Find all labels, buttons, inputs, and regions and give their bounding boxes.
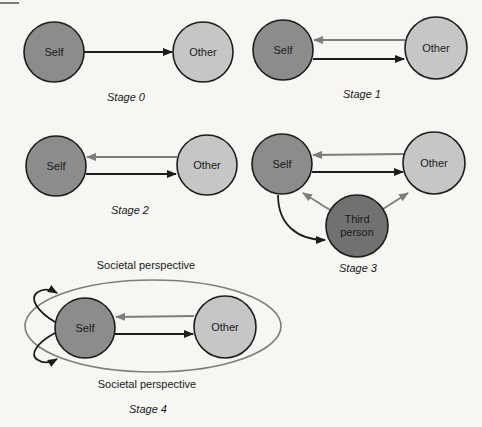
third-to-other-arrow	[383, 193, 408, 209]
other-label: Other	[193, 159, 221, 171]
stage-1: Self Other Stage 1	[253, 17, 467, 100]
other-label: Other	[189, 46, 217, 58]
self-label: Self	[273, 158, 293, 170]
perspective-taking-stages-diagram: Self Other Stage 0 Self Other Stage 1 Se…	[0, 0, 482, 427]
self-label: Self	[45, 46, 65, 58]
societal-perspective-top-label: Societal perspective	[97, 259, 195, 271]
other-label: Other	[422, 42, 450, 54]
stage-3: Self Other Third person Stage 3	[252, 132, 465, 274]
societal-perspective-bottom-label: Societal perspective	[98, 378, 196, 390]
stage-label: Stage 4	[129, 403, 167, 415]
stage-0: Self Other Stage 0	[24, 22, 233, 103]
stage-label: Stage 1	[343, 88, 381, 100]
stage-label: Stage 2	[111, 204, 149, 216]
self-loop-lower-arrow	[34, 333, 57, 363]
third-to-self-arrow	[303, 193, 330, 210]
other-label: Other	[211, 321, 239, 333]
other-label: Other	[420, 157, 448, 169]
self-loop-upper-arrow	[34, 289, 57, 322]
self-label: Self	[76, 322, 96, 334]
self-label: Self	[47, 160, 67, 172]
stage-4: Societal perspective Self Other Societal…	[25, 259, 281, 415]
stage-label: Stage 3	[339, 262, 378, 274]
other-to-self-arrow	[116, 316, 194, 317]
stage-2: Self Other Stage 2	[26, 135, 237, 216]
other-to-self-arrow	[313, 154, 404, 155]
stage-label: Stage 0	[107, 91, 146, 103]
third-person-label-line1: Third	[344, 213, 369, 225]
self-label: Self	[274, 44, 294, 56]
third-person-label-line2: person	[340, 226, 374, 238]
